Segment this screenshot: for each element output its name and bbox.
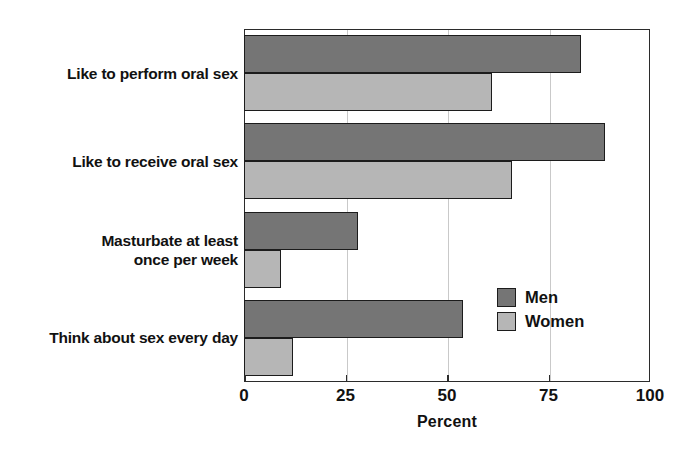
x-axis-title: Percent <box>244 413 650 431</box>
category-label-line: once per week <box>2 250 238 269</box>
category-label-line: Like to perform oral sex <box>2 64 238 83</box>
tickmark-75 <box>549 375 551 382</box>
tickmark-100 <box>649 375 651 382</box>
legend-label-women: Women <box>525 312 584 331</box>
category-label-1: Like to receive oral sex <box>2 152 238 171</box>
bar-women-2 <box>244 250 281 288</box>
legend-swatch-men-icon <box>497 288 516 307</box>
x-tick-label-25: 25 <box>336 386 355 406</box>
x-tick-label-75: 75 <box>539 386 558 406</box>
legend-item-women: Women <box>497 309 617 333</box>
x-tick-label-100: 100 <box>636 386 664 406</box>
legend: Men Women <box>497 285 617 333</box>
legend-swatch-women-icon <box>497 312 516 331</box>
category-label-2: Masturbate at leastonce per week <box>2 231 238 269</box>
category-label-line: Masturbate at least <box>2 231 238 250</box>
category-label-line: Think about sex every day <box>2 328 238 347</box>
bar-men-2 <box>244 212 358 250</box>
bar-women-1 <box>244 161 512 199</box>
bar-chart: Like to perform oral sexLike to receive … <box>0 0 693 456</box>
tickmark-50 <box>447 375 449 382</box>
bar-men-1 <box>244 123 605 161</box>
tickmark-25 <box>346 375 348 382</box>
bar-women-0 <box>244 73 492 111</box>
x-tick-label-50: 50 <box>438 386 457 406</box>
legend-label-men: Men <box>525 288 558 307</box>
bar-men-3 <box>244 300 463 338</box>
category-axis-labels: Like to perform oral sexLike to receive … <box>0 29 238 382</box>
legend-item-men: Men <box>497 285 617 309</box>
category-label-0: Like to perform oral sex <box>2 64 238 83</box>
category-label-line: Like to receive oral sex <box>2 152 238 171</box>
bar-women-3 <box>244 338 293 376</box>
tickmark-0 <box>244 375 246 382</box>
x-axis-ticks: 0255075100 <box>244 382 650 408</box>
x-tick-label-0: 0 <box>239 386 248 406</box>
category-label-3: Think about sex every day <box>2 328 238 347</box>
bar-men-0 <box>244 35 581 73</box>
